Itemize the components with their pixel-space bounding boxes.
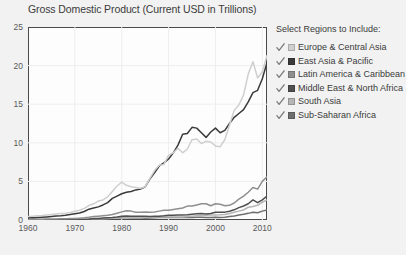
legend-item-3[interactable]: Latin America & Caribbean xyxy=(276,68,406,81)
gridlines xyxy=(28,27,267,220)
legend-item-6[interactable]: Sub-Saharan Africa xyxy=(276,109,406,122)
legend-item-4[interactable]: Middle East & North Africa xyxy=(276,82,406,95)
y-axis-tick-label: 15 xyxy=(14,99,23,109)
checkbox-checked-icon[interactable] xyxy=(276,70,285,79)
legend-item-label: Europe & Central Asia xyxy=(298,42,387,53)
y-axis: 0510152025 xyxy=(0,27,26,220)
series-line xyxy=(28,56,267,217)
checkbox-checked-icon[interactable] xyxy=(276,57,285,66)
legend-color-swatch xyxy=(288,44,295,51)
legend-item-1[interactable]: Europe & Central Asia xyxy=(276,41,406,54)
x-axis-tick-label: 1990 xyxy=(159,223,178,233)
legend-title: Select Regions to Include: xyxy=(276,24,406,34)
legend-color-swatch xyxy=(288,58,295,65)
legend-item-label: Middle East & North Africa xyxy=(298,83,403,94)
legend-list: Europe & Central AsiaEast Asia & Pacific… xyxy=(276,41,406,122)
legend-item-5[interactable]: South Asia xyxy=(276,95,406,108)
caption-strip xyxy=(0,243,406,255)
y-axis-tick-label: 10 xyxy=(14,138,23,148)
x-axis-tick-label: 2010 xyxy=(253,223,272,233)
y-axis-tick-label: 5 xyxy=(18,176,23,186)
x-axis-tick-label: 1980 xyxy=(112,223,131,233)
legend-item-label: East Asia & Pacific xyxy=(298,56,373,67)
legend-item-2[interactable]: East Asia & Pacific xyxy=(276,55,406,68)
checkbox-checked-icon[interactable] xyxy=(276,97,285,106)
gdp-chart-app: Gross Domestic Product (Current USD in T… xyxy=(0,0,406,255)
x-axis-tick-label: 1960 xyxy=(19,223,38,233)
x-axis-tick-label: 1970 xyxy=(65,223,84,233)
legend-item-label: Latin America & Caribbean xyxy=(298,69,405,80)
plot-area xyxy=(28,27,267,220)
legend-item-label: South Asia xyxy=(298,96,341,107)
checkbox-checked-icon[interactable] xyxy=(276,111,285,120)
legend-color-swatch xyxy=(288,98,295,105)
y-axis-tick-label: 20 xyxy=(14,61,23,71)
legend-color-swatch xyxy=(288,112,295,119)
x-axis-tick-label: 2000 xyxy=(206,223,225,233)
legend-color-swatch xyxy=(288,85,295,92)
x-axis: 196019701980199020002010 xyxy=(28,221,267,237)
checkbox-checked-icon[interactable] xyxy=(276,84,285,93)
series-line xyxy=(28,63,267,218)
legend-panel: Select Regions to Include: Europe & Cent… xyxy=(276,24,406,122)
legend-item-label: Sub-Saharan Africa xyxy=(298,110,376,121)
checkbox-checked-icon[interactable] xyxy=(276,43,285,52)
page-title: Gross Domestic Product (Current USD in T… xyxy=(28,3,257,15)
legend-color-swatch xyxy=(288,71,295,78)
line-chart-canvas xyxy=(28,27,267,220)
y-axis-tick-label: 25 xyxy=(14,22,23,32)
